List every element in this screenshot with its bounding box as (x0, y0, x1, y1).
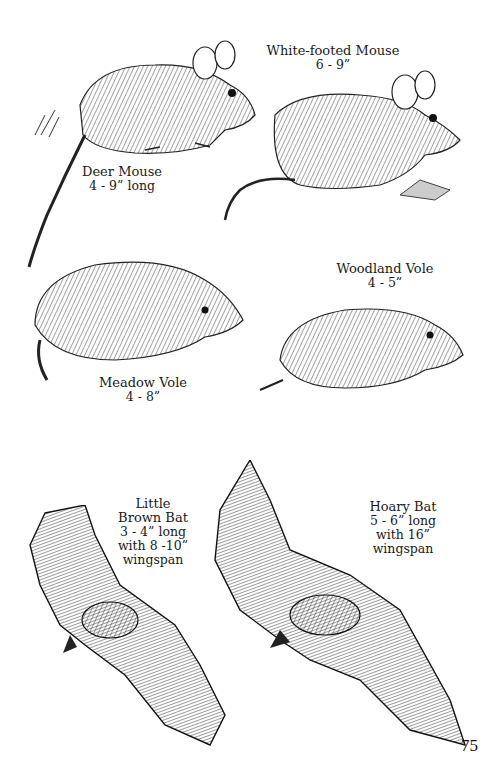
page-number: 75 (461, 736, 478, 756)
meadow-vole-illustration (25, 255, 255, 385)
animal-name: White-footed Mouse (258, 44, 408, 58)
white-footed-mouse-illustration (220, 70, 480, 230)
animal-wingspan: with 16” (358, 528, 448, 542)
animal-name: Deer Mouse (72, 165, 172, 179)
animal-size: 4 - 8” (126, 389, 160, 404)
animal-wingspan-word: wingspan (358, 542, 448, 556)
animal-name: Woodland Vole (325, 262, 445, 276)
deer-mouse-label: Deer Mouse 4 - 9” long (72, 165, 172, 193)
woodland-vole-label: Woodland Vole 4 - 5” (325, 262, 445, 290)
animal-size: 3 - 4” long (103, 525, 203, 539)
animal-name: Meadow Vole (88, 376, 198, 390)
animal-name-line1: Little (103, 497, 203, 511)
little-brown-bat-label: Little Brown Bat 3 - 4” long with 8 -10”… (103, 497, 203, 567)
animal-size: 4 - 5” (368, 275, 402, 290)
animal-wingspan-word: wingspan (103, 553, 203, 567)
hoary-bat-label: Hoary Bat 5 - 6” long with 16” wingspan (358, 500, 448, 556)
animal-size: 5 - 6” long (358, 514, 448, 528)
animal-size: 4 - 9” long (89, 178, 155, 193)
animal-size: 6 - 9” (316, 57, 350, 72)
animal-wingspan: with 8 -10” (103, 539, 203, 553)
woodland-vole-illustration (255, 300, 475, 400)
animal-name-line2: Brown Bat (103, 511, 203, 525)
meadow-vole-label: Meadow Vole 4 - 8” (88, 376, 198, 404)
white-footed-mouse-label: White-footed Mouse 6 - 9” (258, 44, 408, 72)
animal-name: Hoary Bat (358, 500, 448, 514)
